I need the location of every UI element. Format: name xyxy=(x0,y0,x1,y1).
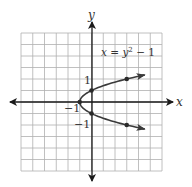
equation-label: x = y2 − 1 xyxy=(101,46,155,58)
x-axis-label: x xyxy=(176,95,183,109)
tick-label-y-1: 1 xyxy=(84,74,91,87)
tick-label-y-neg1: −1 xyxy=(74,118,90,131)
parabola-curve-lower-arrow xyxy=(142,128,145,129)
parabola-graph: y x x = y2 − 1 1 −1 −1 xyxy=(0,0,192,187)
equation-rhs: − 1 xyxy=(133,46,155,58)
y-axis-label: y xyxy=(87,8,95,22)
tick-label-vertex-neg1: −1 xyxy=(64,102,80,115)
parabola-curve-upper-arrow xyxy=(142,75,145,76)
equation-lhs: x = y xyxy=(101,46,129,58)
data-point xyxy=(124,77,129,82)
data-point xyxy=(124,123,129,128)
data-point xyxy=(89,88,94,93)
data-point xyxy=(89,111,94,116)
